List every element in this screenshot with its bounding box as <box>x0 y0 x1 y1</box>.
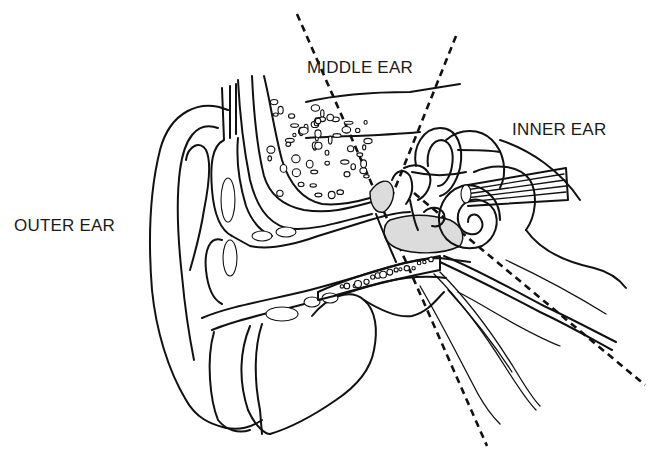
bone-pore <box>328 136 332 144</box>
bone-pore <box>356 128 360 132</box>
bone-pore <box>315 193 322 197</box>
bone-pore <box>278 106 283 114</box>
bone-pore <box>351 164 356 170</box>
bone-pore <box>387 269 393 275</box>
ear-canal <box>211 76 410 276</box>
bone-pore <box>344 172 350 177</box>
bone-pore <box>355 281 362 288</box>
bone-pore <box>298 182 304 186</box>
bone-pore <box>361 160 367 168</box>
bone-pore <box>268 156 272 161</box>
lower-canal <box>202 256 470 434</box>
bone-pore <box>311 105 319 111</box>
eustachian-tube <box>420 256 616 424</box>
bone-pore <box>429 257 434 262</box>
bone-pore <box>273 113 278 116</box>
bone-pore <box>292 155 300 163</box>
bone-pore <box>285 138 294 142</box>
bone-pore <box>344 121 353 124</box>
bone-pore <box>341 160 349 164</box>
bone-pore <box>364 175 369 178</box>
bone-pore <box>412 267 415 270</box>
bone-pore <box>315 130 321 138</box>
bone-pore <box>404 266 409 271</box>
bone-pore <box>399 268 402 271</box>
bone-pore <box>293 133 296 137</box>
bone-pore <box>380 271 387 278</box>
bone-pore <box>333 134 341 138</box>
bone-pore <box>315 142 322 149</box>
bone-pore <box>394 268 398 272</box>
bone-pore <box>344 283 350 289</box>
bone-pore <box>325 150 329 155</box>
bone-pore <box>348 146 354 152</box>
bone-pore <box>267 146 275 153</box>
bone-pore <box>363 145 366 150</box>
bone-pore <box>342 127 351 134</box>
label-middle-ear: MIDDLE EAR <box>307 58 413 78</box>
bone-pore <box>289 114 295 119</box>
bone-pore <box>291 124 299 128</box>
bone-pore <box>270 100 277 105</box>
bone-pore <box>340 285 343 288</box>
bone-pore <box>286 142 291 146</box>
bone-pore <box>277 190 283 196</box>
bone-pore <box>337 190 344 195</box>
bone-pore <box>364 121 367 125</box>
bone-pore <box>327 114 334 120</box>
bone-pore <box>360 168 367 174</box>
bone-pore <box>292 169 300 177</box>
bone-pore <box>328 191 335 198</box>
bone-pore <box>325 161 330 165</box>
bone-pore <box>417 261 421 265</box>
bone-pore <box>364 279 369 284</box>
label-inner-ear: INNER EAR <box>512 120 606 140</box>
bone-pore <box>280 165 287 173</box>
bone-pore <box>357 153 363 157</box>
label-outer-ear: OUTER EAR <box>14 216 115 236</box>
bone-pore <box>371 275 375 279</box>
bone-pore <box>321 110 324 118</box>
bone-pore <box>311 170 318 174</box>
bone-pore <box>306 160 313 168</box>
bone-pore <box>364 138 372 143</box>
bone-pore <box>423 260 426 263</box>
bone-pore <box>299 127 308 134</box>
bone-pore <box>315 118 320 124</box>
bone-pore <box>310 184 316 187</box>
